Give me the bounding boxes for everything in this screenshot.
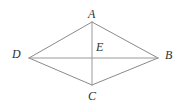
vertex-label-b: B (165, 49, 172, 61)
quadrilateral-sides (29, 22, 158, 85)
geometry-figure: A D B C E (0, 0, 181, 108)
side-DA (29, 22, 92, 58)
vertex-label-c: C (88, 90, 96, 102)
side-BC (92, 58, 158, 85)
vertex-label-d: D (12, 48, 21, 60)
side-CD (29, 58, 92, 85)
vertex-label-a: A (88, 8, 95, 20)
diagonals (29, 22, 158, 85)
vertex-label-e: E (96, 41, 103, 53)
